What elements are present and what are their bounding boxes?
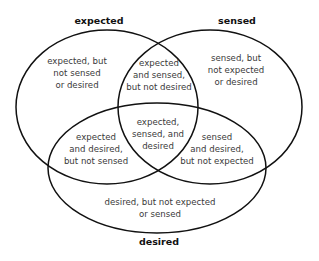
set-label-expected: expected bbox=[74, 15, 123, 26]
region-desired-only: desired, but not expected or sensed bbox=[105, 196, 216, 220]
region-expected-desired: expected and desired, but not sensed bbox=[64, 131, 128, 167]
region-sensed-only: sensed, but not expected or desired bbox=[208, 52, 265, 88]
region-sensed-desired: sensed and desired, but not expected bbox=[180, 131, 254, 167]
region-all-three: expected, sensed, and desired bbox=[132, 116, 184, 152]
venn-diagram: expected sensed desired expected, but no… bbox=[0, 0, 319, 261]
set-label-desired: desired bbox=[139, 236, 179, 247]
region-expected-sensed: expected and sensed, but not desired bbox=[126, 57, 192, 93]
set-label-sensed: sensed bbox=[218, 15, 256, 26]
region-expected-only: expected, but not sensed or desired bbox=[47, 55, 107, 91]
